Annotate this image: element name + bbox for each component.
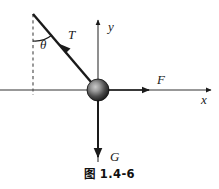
tension-label: T — [68, 28, 75, 41]
angle-theta-label: θ — [40, 38, 46, 51]
y-axis-label: y — [108, 20, 114, 33]
physics-figure: y x T F G θ 图 1.4-6 — [0, 0, 219, 189]
sphere-mass-icon — [87, 79, 109, 101]
force-F-label: F — [157, 73, 165, 86]
force-G-label: G — [110, 150, 119, 163]
x-axis-label: x — [201, 93, 207, 106]
tension-arrowhead-icon — [59, 44, 71, 54]
figure-caption: 图 1.4-6 — [0, 165, 219, 181]
